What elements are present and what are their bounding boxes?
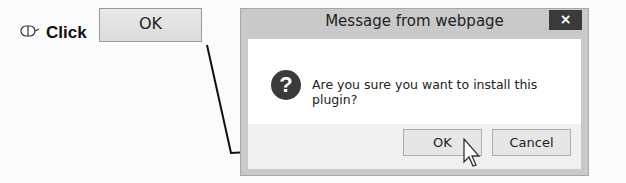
- callout-ok-button: OK: [99, 8, 202, 42]
- dialog-footer: OK Cancel: [248, 124, 581, 169]
- cancel-button[interactable]: Cancel: [492, 129, 571, 156]
- dialog-message: Are you sure you want to install this pl…: [312, 77, 581, 107]
- question-icon: ?: [271, 70, 301, 100]
- close-icon[interactable]: ×: [549, 10, 582, 30]
- message-dialog: Message from webpage × ? Are you sure yo…: [240, 8, 589, 176]
- cursor-arrow-icon: [462, 138, 484, 168]
- action-label: Click: [46, 23, 87, 43]
- dialog-title: Message from webpage: [241, 12, 588, 30]
- dialog-body: ? Are you sure you want to install this …: [248, 39, 581, 124]
- mouse-icon: [20, 25, 40, 37]
- dialog-titlebar: Message from webpage ×: [241, 9, 588, 39]
